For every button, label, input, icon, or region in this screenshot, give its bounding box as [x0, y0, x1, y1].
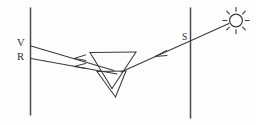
prism2-left-edge: [97, 72, 116, 98]
sun-ray-se: [243, 27, 246, 30]
violet-ray: [31, 46, 114, 71]
prism-right-edge: [112, 52, 136, 89]
label-red: R: [17, 51, 24, 62]
prism-left-edge: [90, 53, 112, 89]
diagram-canvas: V R S: [0, 0, 256, 125]
prism-secondary-icon: [97, 71, 126, 97]
red-ray-arrowhead-icon: [74, 64, 86, 69]
label-violet: V: [17, 37, 25, 48]
incident-sun-ray: [121, 24, 229, 73]
sun-ray-nw: [227, 11, 230, 14]
sun-icon: [223, 8, 249, 34]
sun-disc: [230, 14, 243, 27]
prism2-top-edge: [97, 71, 126, 72]
incident-ray-arrowhead-icon: [155, 51, 167, 57]
sun-ray-ne: [243, 11, 246, 14]
prism-dispersion-figure: V R S: [0, 0, 256, 125]
sun-ray-sw: [227, 27, 230, 30]
prism-top-edge: [90, 52, 136, 53]
label-source-ray: S: [182, 32, 187, 42]
